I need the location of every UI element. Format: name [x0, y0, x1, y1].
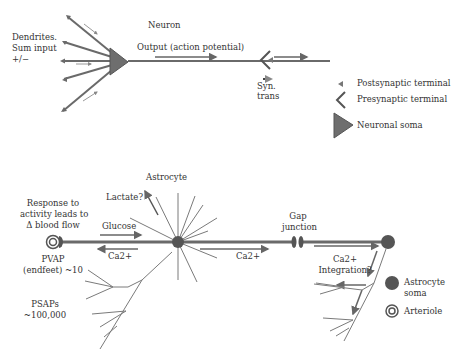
legend-astrocyte-soma-label-1: Astrocyte: [404, 277, 445, 288]
neuronal-soma: [110, 48, 128, 75]
diagram-canvas: Neuron Dendrites. Sum input +/− Output (…: [0, 0, 460, 353]
dendrite-input-arrows: [76, 24, 97, 101]
response-label-1: Response to: [20, 198, 86, 209]
legend-postsynaptic-label: Postsynaptic terminal: [357, 78, 451, 89]
legend-soma-label: Neuronal soma: [357, 120, 423, 131]
integration-label-1: Ca2+: [317, 254, 373, 265]
ca-mid-label: Ca2+: [236, 251, 260, 262]
response-label-3: Δ blood flow: [20, 220, 86, 231]
syn-label-2: trans: [257, 91, 279, 102]
glucose-label: Glucose: [102, 221, 136, 232]
output-label: Output (action potential): [137, 42, 244, 53]
legend-arteriole-label: Arteriole: [404, 306, 442, 317]
gap-label-2: junction: [282, 222, 314, 233]
arteriole-icon: [386, 305, 398, 317]
integration-label-2: Integration?: [317, 265, 373, 276]
astrocyte-soma-right: [381, 235, 395, 249]
presynaptic-terminal-icon: [337, 92, 345, 108]
response-label-2: activity leads to: [20, 209, 86, 220]
lactate-label: Lactate?: [106, 192, 143, 203]
legend-astrocyte-soma-label-2: soma: [404, 288, 427, 299]
arteriole-endfoot: [47, 236, 64, 249]
postsynaptic-terminal: [268, 57, 273, 63]
dendrites-label-3: +/−: [12, 54, 29, 65]
astrocyte-soma: [172, 236, 184, 248]
gap-junction: [292, 236, 304, 248]
astrocyte-soma-icon: [385, 276, 399, 290]
dendrites-label-1: Dendrites.: [12, 32, 57, 43]
astrocyte-fine-processes: [130, 193, 217, 282]
neuronal-soma-icon: [334, 113, 353, 138]
legend-presynaptic-label: Presynaptic terminal: [357, 94, 447, 105]
postsynaptic-terminal-icon: [338, 81, 343, 87]
pvap-label-1: PVAP: [20, 254, 86, 265]
gap-label-1: Gap: [282, 211, 314, 222]
integration-arrow-diag: [353, 290, 362, 314]
lactate-arrow: [145, 191, 158, 215]
dendrite-tips: [60, 15, 71, 112]
psaps-label-1: PSAPs: [20, 299, 70, 310]
psap-branches-left: [85, 252, 172, 349]
dendrites-label-2: Sum input: [12, 43, 57, 54]
psaps-label-2: ~100,000: [20, 310, 70, 321]
pvap-label-2: (endfeet) ~10: [20, 265, 86, 276]
ca-left-label: Ca2+: [108, 251, 132, 262]
astrocyte-title: Astrocyte: [146, 172, 187, 183]
neuron-title: Neuron: [148, 20, 181, 31]
